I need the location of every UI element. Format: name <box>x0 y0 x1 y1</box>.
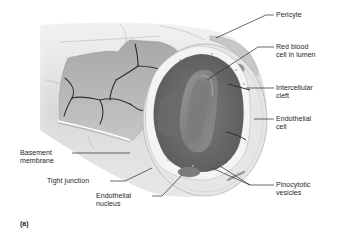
panel-label: (a) <box>20 220 29 227</box>
label-intercellular-cleft: Intercellular cleft <box>276 84 313 100</box>
label-pericyte: Pericyte <box>276 11 302 19</box>
label-endothelial-nucleus: Endothelial nucleus <box>96 192 131 208</box>
label-basement-membrane: Basement membrane <box>20 149 54 165</box>
label-tight-junction: Tight junction <box>47 177 89 185</box>
label-red-blood-cell: Red blood cell in lumen <box>276 43 316 59</box>
label-endothelial-cell: Endothelial cell <box>276 115 311 131</box>
label-pinocytotic-vesicles: Pinocytotic vesicles <box>276 181 310 197</box>
